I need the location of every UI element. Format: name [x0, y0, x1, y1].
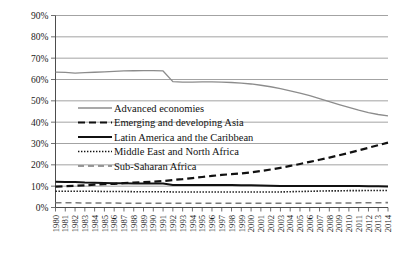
x-tick-label: 1991	[158, 215, 168, 232]
series-line-3	[56, 190, 389, 192]
legend-label-2: Latin America and the Caribbean	[114, 132, 254, 143]
line-chart: 0%10%20%30%40%50%60%70%80%90% 1980198119…	[0, 0, 402, 253]
x-tick-label: 1989	[139, 215, 149, 232]
x-tick-label: 1990	[148, 215, 158, 232]
x-tick-label: 2010	[344, 215, 354, 232]
legend-label-3: Middle East and North Africa	[114, 146, 239, 157]
chart-legend: Advanced economiesEmerging and developin…	[78, 103, 254, 172]
x-tick-label: 1982	[70, 215, 80, 232]
x-tick-label: 1986	[109, 214, 119, 232]
x-tick-label: 2013	[373, 215, 383, 232]
x-tick-label: 2009	[334, 215, 344, 232]
x-tick-label: 2006	[305, 214, 315, 232]
x-tick-label: 2005	[295, 215, 305, 232]
y-tick-label: 80%	[31, 32, 49, 42]
x-tick-label: 2012	[364, 215, 374, 232]
x-tick-label: 1981	[60, 215, 70, 232]
x-tick-label: 1992	[168, 215, 178, 232]
x-tick-label: 2011	[354, 215, 364, 232]
y-tick-label: 90%	[31, 11, 49, 21]
x-tick-label: 1983	[80, 215, 90, 232]
x-tick-label: 1980	[51, 215, 61, 232]
y-axis: 0%10%20%30%40%50%60%70%80%90%	[31, 11, 55, 213]
y-tick-label: 20%	[31, 160, 49, 170]
x-tick-label: 1998	[227, 215, 237, 232]
x-tick-label: 1993	[178, 215, 188, 232]
x-tick-label: 1985	[100, 215, 110, 232]
series-line-0	[56, 71, 389, 116]
x-tick-label: 1984	[90, 214, 100, 232]
y-tick-label: 30%	[31, 139, 49, 149]
chart-canvas: 0%10%20%30%40%50%60%70%80%90% 1980198119…	[0, 0, 402, 253]
y-tick-label: 70%	[31, 54, 49, 64]
legend-label-4: Sub-Saharan Africa	[114, 161, 197, 172]
gridlines	[56, 16, 389, 187]
x-tick-label: 2002	[266, 215, 276, 232]
x-tick-label: 2004	[285, 214, 295, 232]
x-tick-label: 1996	[207, 214, 217, 232]
y-tick-label: 50%	[31, 96, 49, 106]
x-tick-label: 2000	[246, 215, 256, 232]
x-tick-label: 1999	[237, 215, 247, 232]
x-tick-label: 2014	[383, 214, 393, 232]
y-tick-label: 60%	[31, 75, 49, 85]
x-tick-label: 2003	[276, 215, 286, 232]
x-tick-label: 1997	[217, 214, 227, 232]
y-tick-label: 10%	[31, 182, 49, 192]
x-tick-label: 1987	[119, 214, 129, 232]
x-tick-label: 1988	[129, 215, 139, 232]
y-tick-label: 0%	[36, 203, 49, 213]
x-tick-label: 2008	[325, 215, 335, 232]
series-line-4	[56, 203, 389, 204]
x-tick-label: 1995	[197, 215, 207, 232]
legend-label-0: Advanced economies	[114, 103, 204, 114]
x-tick-label: 1994	[188, 214, 198, 232]
y-tick-label: 40%	[31, 118, 49, 128]
legend-label-1: Emerging and developing Asia	[114, 117, 244, 128]
x-axis: 1980198119821983198419851986198719881989…	[51, 208, 394, 233]
x-tick-label: 2001	[256, 215, 266, 232]
x-tick-label: 2007	[315, 214, 325, 232]
